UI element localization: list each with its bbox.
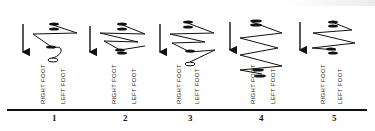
footprint-icon [250, 19, 262, 22]
turn-path [52, 47, 61, 58]
footprint-icon [185, 49, 195, 52]
right-foot-label-3: RIGHT FOOT [176, 64, 182, 104]
footprint-icon [46, 45, 56, 48]
left-foot-label-4: LEFT FOOT [270, 68, 276, 104]
right-foot-label-4: RIGHT FOOT [250, 64, 256, 104]
right-foot-label-2: RIGHT FOOT [111, 64, 117, 104]
step-path [240, 22, 282, 74]
footprint-icon [48, 58, 58, 62]
left-foot-label-5: LEFT FOOT [337, 68, 343, 104]
stage-number-3: 3 [188, 113, 193, 123]
footprint-icon [250, 23, 262, 26]
footprint-icon [115, 48, 125, 51]
footprint-icon [183, 20, 193, 23]
footprint-icon [49, 22, 59, 25]
left-foot-label-1: LEFT FOOT [60, 68, 66, 104]
left-foot-label-3: LEFT FOOT [194, 68, 200, 104]
stage-1-figure [23, 22, 77, 62]
stage-number-4: 4 [259, 113, 264, 123]
footprint-icon [49, 27, 59, 30]
footprint-icon [328, 51, 338, 54]
stage-4-figure [230, 19, 300, 77]
stage-5-figure [312, 20, 355, 54]
footprint-icon [117, 51, 127, 54]
left-foot-label-2: LEFT FOOT [131, 68, 137, 104]
footprint-icon [328, 24, 338, 27]
stage-number-5: 5 [332, 113, 337, 123]
stage-2-figure [90, 22, 145, 54]
stage-3-figure [160, 20, 215, 65]
footprint-icon [328, 20, 338, 23]
right-foot-label-5: RIGHT FOOT [320, 64, 326, 104]
footprint-icon [117, 27, 127, 30]
stage-number-2: 2 [123, 113, 128, 123]
right-foot-label-1: RIGHT FOOT [40, 64, 46, 104]
step-path [170, 22, 215, 62]
baseline [7, 109, 367, 111]
footprint-icon [183, 25, 193, 28]
footprint-icon [326, 47, 336, 50]
stage-number-1: 1 [52, 113, 57, 123]
footprint-icon [185, 62, 195, 66]
footprint-icon [117, 22, 127, 25]
step-diagram [0, 0, 375, 131]
